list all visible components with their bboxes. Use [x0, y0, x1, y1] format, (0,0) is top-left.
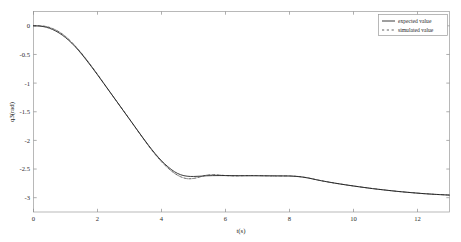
y-tick-label: -2.5	[20, 165, 31, 172]
x-tick-label: 12	[414, 215, 421, 222]
y-tick-label: -0.5	[20, 51, 31, 58]
y-tick-label: -3	[25, 194, 31, 201]
legend-label-simulated-value: simulated value	[398, 27, 434, 33]
y-tick-label: -2	[25, 137, 31, 144]
figure-canvas: 024681012 0-0.5-1-1.5-2-2.5-3 t(s) q3(ra…	[0, 0, 461, 242]
legend-label-expected-value: expected value	[398, 18, 432, 24]
x-tick-label: 2	[96, 215, 99, 222]
figure-background	[0, 0, 461, 242]
legend: expected value simulated value	[379, 15, 448, 36]
x-tick-label: 10	[350, 215, 357, 222]
line-chart: 024681012 0-0.5-1-1.5-2-2.5-3 t(s) q3(ra…	[0, 0, 461, 242]
x-axis-title: t(s)	[236, 227, 245, 235]
y-tick-label: -1.5	[20, 108, 31, 115]
y-axis-title: q3(rad)	[8, 102, 16, 122]
y-tick-label: -1	[25, 80, 31, 87]
